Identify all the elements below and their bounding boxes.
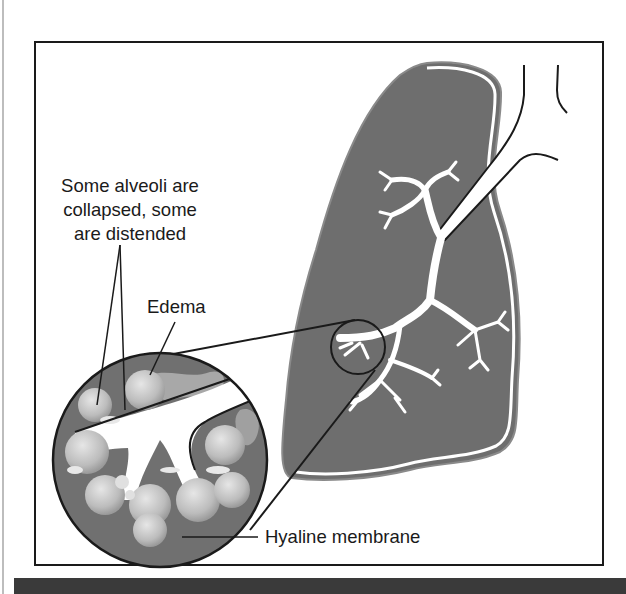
lung-shape — [282, 62, 519, 480]
label-alveoli: Some alveoli are collapsed, some are dis… — [40, 174, 220, 246]
lung-illustration — [0, 0, 626, 594]
label-alveoli-line1: Some alveoli are — [40, 174, 220, 198]
label-hyaline-membrane: Hyaline membrane — [265, 525, 420, 549]
bottom-bar — [14, 578, 626, 594]
magnified-alveoli — [53, 353, 267, 567]
label-edema: Edema — [147, 295, 206, 319]
label-alveoli-line2: collapsed, some — [40, 198, 220, 222]
label-alveoli-line3: are distended — [40, 222, 220, 246]
